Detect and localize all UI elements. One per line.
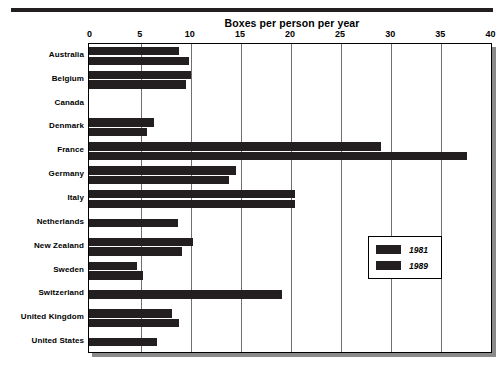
plot-area — [88, 43, 492, 353]
bar-series-group — [89, 44, 491, 352]
x-tick-label: 10 — [185, 29, 195, 39]
bar-row — [89, 187, 491, 211]
bar-1989 — [89, 152, 467, 160]
category-label: Sweden — [0, 265, 84, 274]
bar-1981 — [89, 118, 154, 126]
bar-1981 — [89, 309, 172, 317]
bar-row — [89, 116, 491, 140]
category-label: Canada — [0, 98, 84, 107]
category-label: Switzerland — [0, 288, 84, 297]
x-tick-label: 20 — [285, 29, 295, 39]
bar-1989 — [89, 176, 229, 184]
bar-1981 — [89, 71, 191, 79]
top-divider-rule — [11, 8, 493, 12]
legend-entry: 1989 — [376, 259, 434, 272]
bar-row — [89, 92, 491, 116]
bar-1989 — [89, 338, 157, 346]
bar-row — [89, 306, 491, 330]
bar-1989 — [89, 247, 182, 255]
bar-row — [89, 68, 491, 92]
legend-swatch — [376, 245, 401, 254]
bar-1989 — [89, 128, 147, 136]
bar-row — [89, 163, 491, 187]
x-tick-label: 0 — [87, 29, 92, 39]
bar-row — [89, 44, 491, 68]
x-tick-label: 35 — [435, 29, 445, 39]
category-label: Denmark — [0, 121, 84, 130]
category-label: Germany — [0, 169, 84, 178]
bar-1989 — [89, 271, 143, 279]
bar-1989 — [89, 57, 189, 65]
x-tick-label: 15 — [235, 29, 245, 39]
category-label: Belgium — [0, 74, 84, 83]
bar-row — [89, 211, 491, 235]
bar-1989 — [89, 200, 295, 208]
category-label: Italy — [0, 193, 84, 202]
x-tick-label: 30 — [385, 29, 395, 39]
x-axis-tick-labels: 0510152025303540 — [0, 29, 504, 41]
bar-1989 — [89, 219, 178, 227]
chart-legend: 19811989 — [368, 236, 442, 279]
category-label: Netherlands — [0, 217, 84, 226]
y-axis-category-labels: AustraliaBelgiumCanadaDenmarkFranceGerma… — [0, 43, 84, 353]
category-label: United States — [0, 336, 84, 345]
category-label: United Kingdom — [0, 312, 84, 321]
category-label: France — [0, 145, 84, 154]
bar-1981 — [89, 142, 381, 150]
x-tick-label: 40 — [485, 29, 495, 39]
bar-1989 — [89, 290, 282, 298]
legend-swatch — [376, 261, 401, 270]
bar-1981 — [89, 190, 295, 198]
bar-1981 — [89, 238, 193, 246]
bar-row — [89, 330, 491, 354]
category-label: New Zealand — [0, 241, 84, 250]
bar-1981 — [89, 166, 236, 174]
bar-1981 — [89, 47, 179, 55]
chart-title: Boxes per person per year — [88, 17, 496, 29]
bar-1981 — [89, 262, 137, 270]
x-tick-label: 5 — [137, 29, 142, 39]
legend-label: 1981 — [409, 245, 428, 255]
category-label: Australia — [0, 50, 84, 59]
bar-1989 — [89, 80, 186, 88]
legend-entry: 1981 — [376, 243, 434, 256]
bar-1989 — [89, 319, 179, 327]
x-tick-label: 25 — [335, 29, 345, 39]
bar-row — [89, 282, 491, 306]
legend-label: 1989 — [409, 261, 428, 271]
bar-row — [89, 139, 491, 163]
